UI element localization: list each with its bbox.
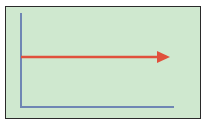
- horizontal-arrow: [21, 51, 170, 63]
- diagram-canvas: [0, 0, 207, 127]
- arrow-head-icon: [157, 51, 170, 63]
